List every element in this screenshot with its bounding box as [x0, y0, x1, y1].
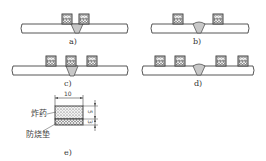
panel-label-d: d) [194, 80, 202, 88]
anti-burn-pad-layer [55, 119, 83, 125]
explosive-charge [238, 56, 248, 66]
explosive-charge [79, 14, 89, 24]
panel-b [151, 14, 249, 33]
width-dimension-value: 10 [64, 91, 72, 97]
explosive-charge [62, 14, 72, 24]
anti-burn-pad-label: 防烧垫 [26, 131, 50, 139]
panel-a [21, 14, 128, 33]
explosive-charge [173, 14, 183, 24]
explosive-label: 炸药 [31, 110, 47, 118]
explosive-charge [175, 56, 185, 66]
panel-c [12, 56, 128, 76]
panel-d [142, 56, 254, 75]
explosive-charge [66, 56, 76, 66]
explosive-charge [87, 56, 97, 66]
panel-label-b: b) [193, 38, 201, 46]
explosive-layer [55, 106, 83, 119]
panel-label-e: e) [64, 149, 72, 157]
explosive-charge [216, 56, 226, 66]
explosive-charge [155, 56, 165, 66]
panel-label-c: c) [64, 80, 72, 88]
pad-height-value: 3 [87, 120, 93, 124]
explosive-height-value: 5 [87, 110, 93, 114]
panel-label-a: a) [69, 38, 77, 46]
explosive-charge [213, 14, 223, 24]
explosive-charge [46, 56, 56, 66]
